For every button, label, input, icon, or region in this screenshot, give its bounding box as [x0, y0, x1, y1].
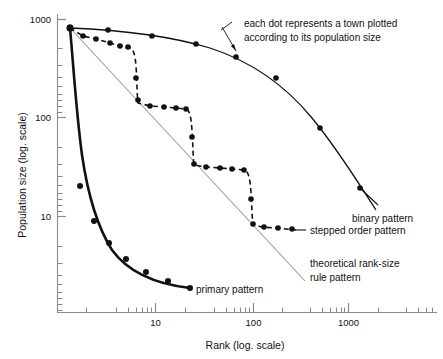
y-tick-label-1000: 1000: [30, 14, 51, 25]
binary-pattern-label: binary pattern: [352, 213, 413, 224]
annotation-line-1: each dot represents a town plotted: [244, 18, 397, 29]
x-tick-label-1000: 1000: [338, 317, 359, 328]
chart-background: [0, 0, 443, 359]
chart-figure: 1000 100 10 10 100 1000 Population size …: [0, 0, 443, 359]
chart-svg: 1000 100 10 10 100 1000 Population size …: [0, 0, 443, 359]
y-tick-label-100: 100: [35, 112, 51, 123]
primary-pattern-label: primary pattern: [196, 284, 263, 295]
y-tick-label-10: 10: [40, 211, 51, 222]
x-tick-label-10: 10: [150, 317, 161, 328]
annotation-line-2: according to its population size: [244, 32, 381, 43]
theoretical-pattern-label-1: theoretical rank-size: [310, 258, 400, 269]
x-tick-label-100: 100: [246, 317, 262, 328]
theoretical-pattern-label-2: rule pattern: [310, 272, 361, 283]
y-axis-title: Population size (log. scale): [16, 112, 28, 237]
stepped-pattern-label: stepped order pattern: [310, 225, 406, 236]
x-axis-title: Rank (log. scale): [206, 339, 285, 351]
annotation-stepped-pattern: stepped order pattern: [296, 225, 406, 236]
annotation-primary-pattern: primary pattern: [196, 284, 263, 295]
